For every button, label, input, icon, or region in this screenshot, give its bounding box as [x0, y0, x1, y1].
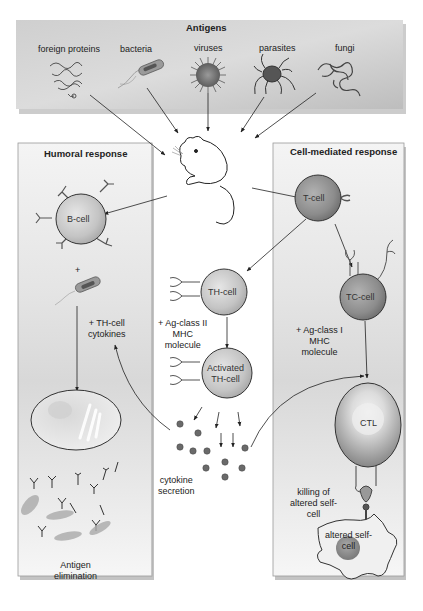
- humoral-title: Humoral response: [44, 148, 127, 159]
- antigen-label-bacteria: bacteria: [120, 44, 152, 55]
- mouse-icon: [172, 136, 234, 224]
- mhc-class-ii-label: + Ag-class IIMHCmolecule: [158, 318, 207, 351]
- altered-self-cell-label: altered self-cell: [325, 530, 372, 552]
- ctl-label: CTL: [360, 418, 377, 429]
- cytokine-arrows: [194, 407, 240, 447]
- activated-th-cell-label: ActivatedTH-cell: [207, 363, 244, 385]
- cell-mediated-title: Cell-mediated response: [290, 146, 397, 157]
- tc-cell-label: TC-cell: [346, 292, 375, 303]
- th-cell-label: TH-cell: [208, 287, 237, 298]
- antigens-title: Antigens: [186, 22, 227, 33]
- killing-label: killing ofaltered self-cell: [290, 487, 337, 520]
- th-cytokines-label: + TH-cellcytokines: [88, 318, 126, 340]
- antigen-label-foreign-proteins: foreign proteins: [38, 44, 100, 55]
- b-cell-label: B-cell: [67, 214, 90, 225]
- plasma-cell: [31, 390, 121, 450]
- virus-icon: [190, 57, 226, 93]
- t-cell-label: T-cell: [303, 193, 325, 204]
- cytokine-secretion-label: cytokinesecretion: [158, 475, 195, 497]
- antigen-label-fungi: fungi: [335, 43, 355, 54]
- antigen-label-viruses: viruses: [194, 43, 223, 54]
- cytokine-dots: [177, 421, 248, 480]
- mhc-class-i-label: + Ag-class IMHCmolecule: [296, 325, 343, 358]
- diagram-canvas: [0, 0, 423, 611]
- antigen-label-parasites: parasites: [259, 43, 296, 54]
- plus-sign: +: [75, 265, 80, 276]
- antigen-elimination-label: Antigenelimination: [54, 560, 97, 582]
